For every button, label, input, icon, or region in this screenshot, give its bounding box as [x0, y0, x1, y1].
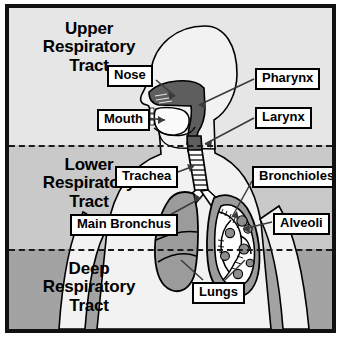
callout-alveoli: Alveoli — [273, 213, 330, 235]
divider-upper-lower — [9, 145, 332, 147]
callout-main-bronchus: Main Bronchus — [70, 214, 178, 236]
callout-mouth: Mouth — [97, 109, 150, 131]
callout-bronchioles: Bronchioles — [252, 166, 336, 188]
larynx-shape — [187, 136, 202, 151]
teeth-detail — [150, 108, 154, 125]
respiratory-tract-figure: Upper Respiratory Tract Lower Respirator… — [0, 0, 341, 339]
band-label-deep-respiratory-tract: Deep Respiratory Tract — [23, 260, 155, 315]
callout-pharynx: Pharynx — [255, 68, 320, 90]
callout-nose: Nose — [107, 65, 153, 87]
diagram-frame: Upper Respiratory Tract Lower Respirator… — [5, 4, 336, 333]
callout-larynx: Larynx — [255, 107, 312, 129]
divider-lower-deep — [9, 249, 332, 251]
callout-lungs: Lungs — [192, 282, 245, 304]
callout-trachea: Trachea — [115, 166, 178, 188]
